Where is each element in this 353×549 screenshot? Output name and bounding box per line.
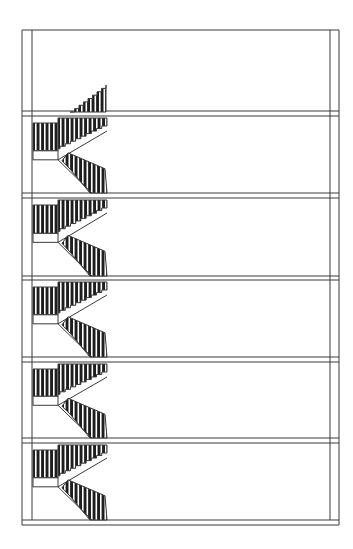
landing-slab <box>33 233 58 242</box>
landing-slab <box>33 151 58 160</box>
stair-module-3 <box>33 282 107 357</box>
landing-slab <box>33 478 58 487</box>
staircase <box>33 85 107 520</box>
stair-module-4 <box>33 364 107 438</box>
landing-slab <box>33 315 58 324</box>
top-stair-flight <box>70 85 106 112</box>
stair-module-2 <box>33 200 107 276</box>
stair-module-5 <box>33 445 107 520</box>
stair-module-1 <box>33 118 107 193</box>
landing-slab <box>33 396 58 405</box>
staircase-section-drawing <box>0 0 353 549</box>
